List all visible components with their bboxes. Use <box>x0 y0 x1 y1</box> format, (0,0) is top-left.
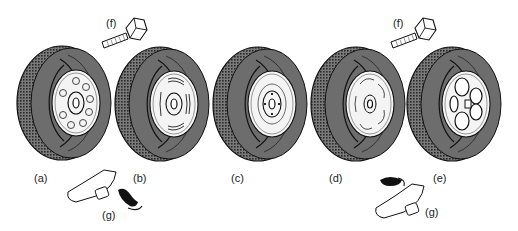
label-d: (d) <box>329 172 342 184</box>
wheel-b <box>115 47 209 161</box>
label-c: (c) <box>231 172 244 184</box>
wheel-e <box>407 47 501 161</box>
wheel-d <box>311 47 405 161</box>
adhesive-weight-icon <box>380 177 404 186</box>
label-a: (a) <box>34 172 47 184</box>
adhesive-weight-icon <box>118 189 142 210</box>
wheel-a <box>17 46 111 160</box>
wheel-c <box>213 47 307 161</box>
label-e: (e) <box>433 172 446 184</box>
wheel-diagram: (a) (b) (c) (d) <box>0 0 518 231</box>
label-g-right: (g) <box>425 206 438 218</box>
label-b: (b) <box>133 172 146 184</box>
label-f-left: (f) <box>106 17 116 29</box>
balance-weight-icon <box>68 170 116 202</box>
balance-weight-icon <box>376 184 424 218</box>
label-g-left: (g) <box>102 209 115 221</box>
label-f-right: (f) <box>393 17 403 29</box>
